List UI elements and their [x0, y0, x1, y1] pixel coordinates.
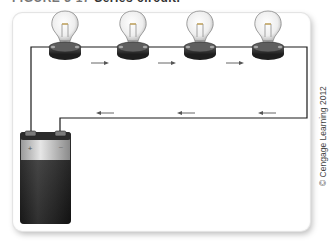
- arrow-right-icon: [158, 61, 176, 65]
- battery-positive-label: +: [28, 144, 33, 153]
- battery: + −: [20, 131, 71, 224]
- bulb-4: [252, 11, 284, 60]
- copyright-notice: © Cengage Learning 2012: [318, 86, 328, 186]
- arrow-left-icon: [96, 111, 114, 115]
- arrow-left-icon: [177, 111, 195, 115]
- bulb-1: [49, 11, 81, 60]
- arrow-right-icon: [91, 61, 109, 65]
- bulb-3: [184, 11, 216, 60]
- arrow-right-icon: [226, 61, 244, 65]
- battery-negative-label: −: [59, 143, 64, 152]
- series-circuit-diagram: + −: [0, 0, 335, 243]
- bulb-2: [117, 11, 149, 60]
- arrow-left-icon: [258, 111, 276, 115]
